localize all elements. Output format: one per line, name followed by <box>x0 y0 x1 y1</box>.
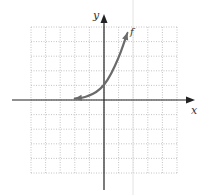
graph <box>0 0 209 195</box>
y-axis-arrow-icon <box>101 14 108 23</box>
y-axis <box>101 14 108 190</box>
y-axis-label: y <box>93 9 99 22</box>
x-axis-label: x <box>191 104 197 117</box>
curve-f <box>75 33 128 99</box>
curve-label: f <box>130 26 134 37</box>
x-axis-arrow-icon <box>186 97 195 104</box>
curve-right-arrow-icon <box>122 33 128 41</box>
